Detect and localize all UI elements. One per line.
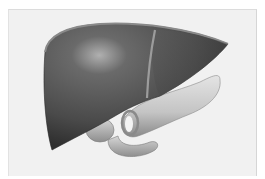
duodenum xyxy=(108,136,158,157)
anatomy-illustration xyxy=(0,0,265,179)
